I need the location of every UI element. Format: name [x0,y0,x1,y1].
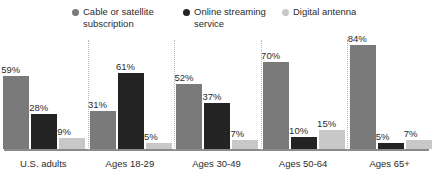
category-label: Ages 18-29 [87,158,174,170]
bar: 59% [3,76,29,149]
bar-value-label: 28% [29,102,48,113]
bar: 7% [232,140,258,149]
bar-value-label: 5% [376,131,390,142]
bar-group-bars: 84%5%7% [346,40,433,149]
bar: 10% [291,137,317,149]
legend-dot-icon [183,9,190,16]
bar-group: 59%28%9%U.S. adults [0,40,87,174]
bar-rect [319,130,345,149]
bar-group-bars: 59%28%9% [0,40,87,149]
bar: 61% [118,73,144,149]
bar-group-bars: 52%37%7% [173,40,260,149]
bar-rect [3,76,29,149]
bar-rect [263,62,289,149]
bar-value-label: 70% [261,50,280,61]
bar-value-label: 84% [348,33,367,44]
bar-value-label: 10% [289,125,308,136]
bar-value-label: 52% [174,72,193,83]
bar: 31% [90,111,116,149]
bar-value-label: 5% [144,131,158,142]
bar-rect [176,84,202,149]
group-divider [347,40,349,150]
category-label: Ages 65+ [346,158,433,170]
bar-rect [118,73,144,149]
bar-chart: Cable or satellite subscription Online s… [0,0,433,174]
bar: 15% [319,130,345,149]
bar-group: 31%61%5%Ages 18-29 [87,40,174,174]
group-divider [174,40,176,150]
bar-value-label: 7% [404,128,418,139]
bar-rect [146,143,172,149]
legend-item-digital-antenna: Digital antenna [282,6,356,18]
bar: 70% [263,62,289,149]
bar: 9% [59,138,85,149]
legend-dot-icon [72,9,79,16]
bar-value-label: 15% [317,118,336,129]
chart-legend: Cable or satellite subscription Online s… [0,6,433,40]
legend-item-cable-or-satellite-subscription: Cable or satellite subscription [72,6,154,29]
bar-rect [291,137,317,149]
bar-value-label: 9% [57,126,71,137]
legend-label: Digital antenna [293,6,356,18]
bar-value-label: 61% [116,61,135,72]
legend-label: Cable or satellite subscription [83,6,154,29]
category-label: U.S. adults [0,158,87,170]
category-label: Ages 50-64 [260,158,347,170]
bar-value-label: 59% [1,64,20,75]
bar-rect [90,111,116,149]
bar: 28% [31,114,57,149]
category-label: Ages 30-49 [173,158,260,170]
bar-group-bars: 31%61%5% [87,40,174,149]
bar-rect [232,140,258,149]
legend-dot-icon [282,9,289,16]
group-divider [88,40,90,150]
bar-rect [406,140,432,149]
bar: 52% [176,84,202,149]
bar-rect [378,143,404,149]
bar-group: 70%10%15%Ages 50-64 [260,40,347,174]
bar-rect [59,138,85,149]
legend-label: Online streaming service [194,6,266,29]
bar-value-label: 37% [202,91,221,102]
bar-value-label: 7% [230,128,244,139]
plot-area: 59%28%9%U.S. adults31%61%5%Ages 18-2952%… [0,40,433,174]
bar: 7% [406,140,432,149]
bar-group-bars: 70%10%15% [260,40,347,149]
bar: 5% [146,143,172,149]
bar: 37% [204,103,230,149]
bar-rect [31,114,57,149]
bar: 5% [378,143,404,149]
bar-rect [204,103,230,149]
bar-group: 52%37%7%Ages 30-49 [173,40,260,174]
group-divider [261,40,263,150]
bar-group: 84%5%7%Ages 65+ [346,40,433,174]
bar: 84% [350,45,376,149]
bar-value-label: 31% [88,99,107,110]
bar-rect [350,45,376,149]
legend-item-online-streaming-service: Online streaming service [183,6,266,29]
